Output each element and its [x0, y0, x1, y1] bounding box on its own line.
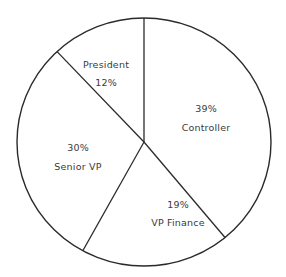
label-senior-vp-pct: 30%: [67, 142, 89, 153]
pie-chart: [0, 0, 286, 277]
label-vp-finance-name: VP Finance: [151, 217, 205, 228]
label-president-pct: 12%: [95, 77, 117, 88]
label-president-name: President: [83, 59, 129, 70]
label-controller-pct: 39%: [195, 103, 217, 114]
label-vp-finance-pct: 19%: [167, 199, 189, 210]
label-senior-vp-name: Senior VP: [54, 161, 101, 172]
label-controller-name: Controller: [182, 122, 231, 133]
